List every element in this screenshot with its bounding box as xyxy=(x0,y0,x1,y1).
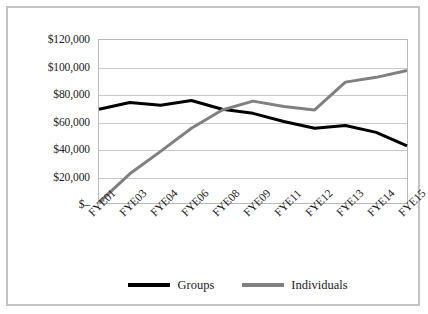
series-line-individuals xyxy=(99,71,407,203)
legend-item-groups[interactable]: Groups xyxy=(128,278,214,293)
x-axis: FYE01FYE03FYE04FYE06FYE08FYE09FYE11FYE12… xyxy=(98,204,408,266)
y-tick-label: $20,000 xyxy=(53,171,90,183)
y-tick-label: $80,000 xyxy=(53,88,90,100)
y-tick-label: $120,000 xyxy=(48,33,90,45)
legend-label: Individuals xyxy=(291,278,347,293)
y-tick-label: $60,000 xyxy=(53,116,90,128)
y-axis: $–$20,000$40,000$60,000$80,000$100,000$1… xyxy=(8,39,94,204)
plot-area xyxy=(98,39,408,204)
chart-figure: $–$20,000$40,000$60,000$80,000$100,000$1… xyxy=(0,0,428,314)
y-tick-label: $100,000 xyxy=(48,61,90,73)
series-line-groups xyxy=(99,100,407,146)
y-tick-label: $40,000 xyxy=(53,143,90,155)
chart-legend: GroupsIndividuals xyxy=(98,274,378,296)
legend-label: Groups xyxy=(177,278,214,293)
legend-swatch-icon xyxy=(242,283,284,287)
legend-swatch-icon xyxy=(128,283,170,287)
series-lines xyxy=(99,40,407,203)
legend-item-individuals[interactable]: Individuals xyxy=(242,278,347,293)
chart-frame: $–$20,000$40,000$60,000$80,000$100,000$1… xyxy=(6,6,420,306)
